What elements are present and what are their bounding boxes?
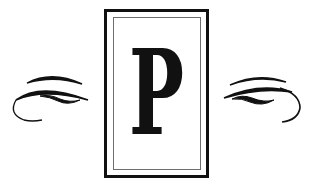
monogram-letter: P <box>126 34 187 152</box>
monogram-logo: P <box>0 0 317 183</box>
outer-frame: P <box>104 9 209 178</box>
flourish-left-icon <box>10 70 100 125</box>
flourish-right-icon <box>220 70 310 125</box>
